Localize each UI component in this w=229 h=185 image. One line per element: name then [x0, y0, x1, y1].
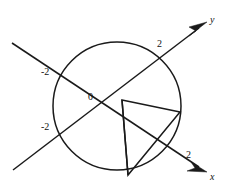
origin-label: 0 [88, 92, 93, 102]
geometry-diagram [0, 0, 229, 185]
x-axis-positive-tick-label: 2 [186, 150, 191, 160]
triangle-leg-segment [122, 100, 128, 175]
circle-shape [53, 42, 181, 170]
y-axis-arrowhead-icon [189, 22, 207, 36]
figure-canvas: 0 2 -2 2 -2 y x [0, 0, 229, 185]
y-axis-negative-tick-label: -2 [41, 122, 49, 132]
inscribed-triangle [122, 100, 180, 175]
y-axis-positive-tick-label: 2 [157, 39, 162, 49]
x-axis-label: x [210, 172, 214, 182]
x-axis-negative-tick-label: -2 [41, 67, 49, 77]
y-axis-label: y [210, 15, 214, 25]
x-axis-arrowhead-icon [187, 162, 207, 172]
x-axis-line [12, 43, 199, 167]
